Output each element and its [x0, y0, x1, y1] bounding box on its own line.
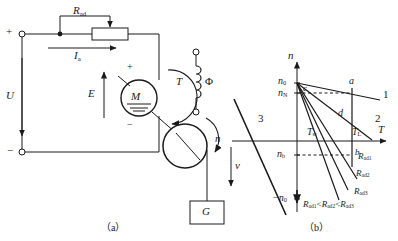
Rad1-sub: ad1 [364, 155, 372, 161]
Rad3-sub: ad3 [360, 190, 368, 196]
resistor-subscript: ad [80, 10, 86, 17]
curve-label-3: 3 [258, 113, 264, 124]
curve-label-2: 2 [375, 113, 381, 124]
tick-Tst-sub: st [313, 130, 317, 137]
resistor-label: Rad [73, 5, 86, 17]
point-label-a: a [349, 76, 354, 86]
chart-x-axis-label: T [378, 124, 384, 135]
tick-nb-sub: b [282, 152, 285, 159]
resistor-base: R [73, 4, 80, 16]
back-emf-label: E [88, 88, 95, 99]
emf-minus-label: − [127, 120, 133, 130]
chart-y-axis-label: n [288, 50, 294, 61]
supply-voltage-label: U [6, 90, 14, 101]
ineq-r3-sub: ad3 [346, 203, 354, 209]
point-label-d: d [338, 108, 343, 118]
tick-TL-sub: L [358, 130, 362, 137]
velocity-label: v [235, 160, 240, 171]
chart-dashed-helpers [297, 93, 352, 155]
tick-negn0-base: −n [272, 192, 284, 203]
terminal-plus-label: + [6, 26, 12, 37]
figure-root: + − U Ia Rad E + − M T Φ n v G （a） n T n… [0, 0, 398, 241]
ineq-r1-sub: ad1 [309, 203, 317, 209]
tick-nN-sub: N [283, 91, 287, 98]
curve-Rad1 [297, 83, 357, 179]
load-weight-label: G [202, 206, 210, 217]
shaft-speed-label: n [215, 133, 221, 144]
curve-label-1: 1 [383, 89, 389, 100]
Rad2-sub: ad2 [362, 172, 370, 178]
point-label-c: c [303, 84, 307, 93]
torque-label: T [176, 76, 182, 87]
tick-label-nN: nN [278, 88, 287, 99]
tick-label-nb: nb [277, 149, 285, 160]
resistance-label-Rad3: Rad3 [354, 187, 368, 197]
armature-current-label: Ia [74, 50, 81, 62]
pulley-drum [163, 124, 207, 168]
resistance-label-Rad2: Rad2 [356, 169, 370, 179]
motor-rotation-arc [168, 70, 197, 124]
armature-current-subscript: a [78, 55, 81, 62]
tick-label-n0: n0 [278, 76, 286, 87]
field-terminal-bottom [193, 109, 199, 115]
caption-a: （a） [101, 223, 125, 233]
terminal-minus-label: − [7, 145, 13, 156]
tick-label-TL: TL [352, 127, 361, 138]
curve-natural-1 [297, 83, 380, 100]
flux-label: Φ [205, 76, 213, 87]
tick-label-Tst: Tst [307, 127, 317, 138]
terminal-negative-node [19, 149, 25, 155]
ineq-r2-sub: ad2 [327, 203, 335, 209]
tick-n0-sub: 0 [283, 79, 286, 86]
resistance-label-Rad1: Rad1 [358, 152, 372, 162]
junction-dot [58, 32, 63, 37]
tick-negn0-sub: 0 [284, 196, 287, 203]
curve-Rad2 [297, 83, 348, 190]
adjustable-resistor-body [92, 28, 128, 40]
tick-label-neg-n0: −n0 [272, 193, 287, 204]
resistance-inequality: Rad1<Rad2<Rad3 [303, 200, 354, 210]
motor-symbol-label: M [131, 91, 140, 102]
terminal-positive-node [19, 31, 25, 37]
caption-b: （b） [304, 223, 329, 233]
field-terminal-top [193, 49, 199, 55]
emf-plus-label: + [127, 62, 133, 72]
